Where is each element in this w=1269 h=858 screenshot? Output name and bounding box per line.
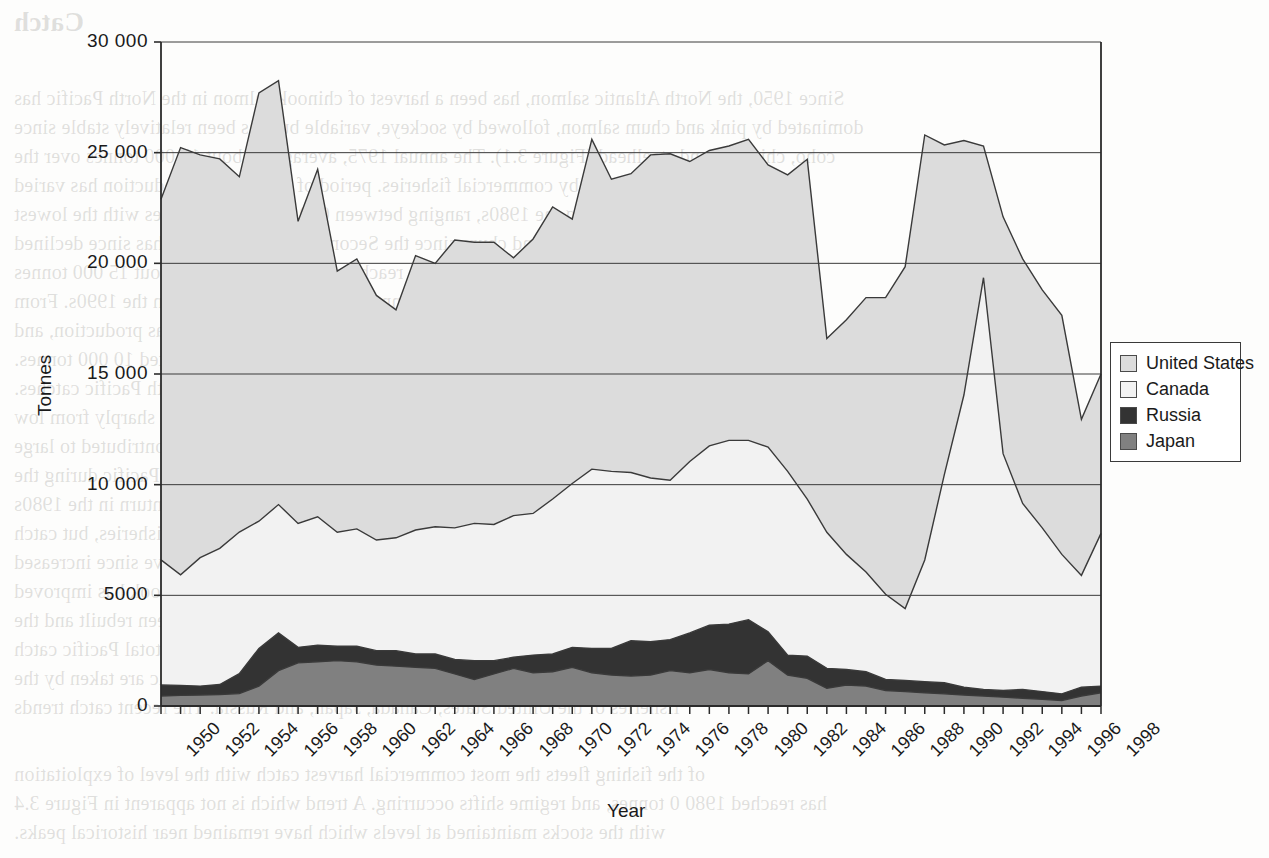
legend-swatch-icon bbox=[1120, 381, 1137, 398]
y-axis-tick-label: 5000 bbox=[104, 583, 148, 605]
y-axis-tick-label: 30 000 bbox=[87, 30, 148, 52]
y-axis-tick-label: 15 000 bbox=[87, 362, 148, 384]
legend-item-label: United States bbox=[1146, 354, 1254, 372]
chart-legend: United StatesCanadaRussiaJapan bbox=[1110, 342, 1241, 462]
y-axis-tick-label: 0 bbox=[137, 694, 148, 716]
y-axis-title: Tonnes bbox=[34, 355, 56, 416]
y-axis-tick-label: 10 000 bbox=[87, 473, 148, 495]
legend-item-label: Japan bbox=[1146, 432, 1195, 450]
legend-swatch-icon bbox=[1120, 407, 1137, 424]
legend-item-canada: Canada bbox=[1120, 376, 1229, 402]
y-axis-tick-label: 20 000 bbox=[87, 251, 148, 273]
figure-stage: CatchSince 1950, the North Atlantic salm… bbox=[0, 0, 1269, 858]
legend-item-label: Canada bbox=[1146, 380, 1209, 398]
legend-item-japan: Japan bbox=[1120, 428, 1229, 454]
area-series-group bbox=[161, 81, 1101, 706]
legend-item-label: Russia bbox=[1146, 406, 1201, 424]
legend-swatch-icon bbox=[1120, 433, 1137, 450]
x-axis-title: Year bbox=[607, 800, 645, 822]
legend-item-united-states: United States bbox=[1120, 350, 1229, 376]
legend-item-russia: Russia bbox=[1120, 402, 1229, 428]
y-axis-tick-label: 25 000 bbox=[87, 141, 148, 163]
legend-swatch-icon bbox=[1120, 355, 1137, 372]
